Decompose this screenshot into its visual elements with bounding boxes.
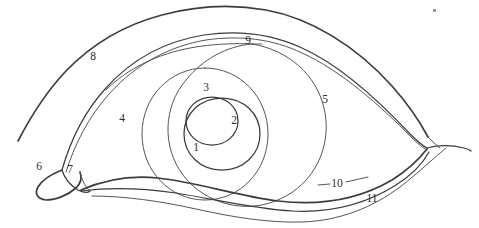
label-4: 4 <box>119 112 125 124</box>
label-9: 9 <box>245 34 251 46</box>
scan-speck-artifact <box>433 9 436 12</box>
label-5: 5 <box>322 93 328 105</box>
label-3: 3 <box>203 81 209 93</box>
upper-eyelid-margin-outer-path <box>62 33 427 170</box>
pupil-large-circle-path <box>184 98 260 170</box>
label-8: 8 <box>90 50 96 62</box>
lower-eyelid-fold-path <box>92 148 446 222</box>
upper-eyelid-fold-path <box>18 7 428 141</box>
label-2: 2 <box>231 114 237 126</box>
outer-canthus-path <box>427 146 471 151</box>
eye-diagram-svg: 1 2 3 4 5 6 7 8 9 10 11 <box>0 0 479 228</box>
label-6: 6 <box>36 160 42 172</box>
iris-outer-circle-path <box>168 44 326 206</box>
leader-line-10-right <box>346 177 368 182</box>
label-10: 10 <box>331 177 343 189</box>
leader-line-10-left <box>318 184 330 185</box>
upper-eyelid-margin-inner-path <box>66 38 427 172</box>
lacrimal-caruncle-path <box>36 170 81 200</box>
label-7: 7 <box>67 163 73 175</box>
eye-diagram-canvas: 1 2 3 4 5 6 7 8 9 10 11 <box>0 0 479 228</box>
label-11: 11 <box>366 192 377 204</box>
label-1: 1 <box>193 141 199 153</box>
